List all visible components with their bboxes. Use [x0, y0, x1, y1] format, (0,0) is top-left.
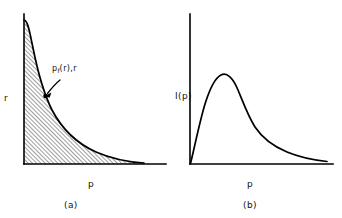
shaded-region-a: [20, 14, 152, 166]
caption-a: (a): [64, 201, 78, 210]
panel-a: r p pf(r),r (a): [0, 0, 171, 218]
curve-label-tail: (r),r: [60, 64, 77, 73]
curve-annotation-label-a: pf(r),r: [52, 65, 77, 74]
panel-b-plot: [171, 0, 342, 218]
panel-a-plot: [0, 0, 171, 218]
x-axis-label-a: p: [88, 180, 94, 189]
y-axis-label-a: r: [4, 94, 8, 103]
x-axis-label-b: p: [247, 180, 253, 189]
curve-intensity-b: [191, 74, 328, 163]
y-axis-label-b: I(p): [175, 92, 192, 101]
figure-container: r p pf(r),r (a) I(p) p (b): [0, 0, 342, 218]
caption-b: (b): [243, 201, 257, 210]
panel-b: I(p) p (b): [171, 0, 342, 218]
annotation-arrow-a: [45, 80, 60, 98]
